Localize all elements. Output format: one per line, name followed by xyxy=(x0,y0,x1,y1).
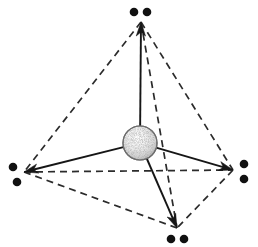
lone-pair-dot xyxy=(9,163,18,172)
lone-pair-dot xyxy=(130,8,139,17)
central-atom-texture xyxy=(121,124,159,162)
edge-left-right xyxy=(24,170,233,172)
lone-pair-dot xyxy=(240,175,249,184)
bond-center-left-shaft xyxy=(28,147,126,171)
tetrahedron-edges xyxy=(24,22,233,228)
bond-center-bottom xyxy=(146,157,177,228)
tetrahedral-geometry-figure xyxy=(0,0,258,247)
lone-pair-dot xyxy=(240,160,249,169)
molecular-geometry-diagram xyxy=(0,0,258,247)
lone-pair-dot xyxy=(13,178,22,187)
lone-pair-right xyxy=(240,160,249,184)
lone-pair-top xyxy=(130,8,152,17)
lone-pair-dots xyxy=(9,8,249,244)
lone-pair-dot xyxy=(180,235,189,244)
bond-center-left xyxy=(24,147,125,173)
lone-pair-dot xyxy=(143,8,152,17)
central-atom xyxy=(121,124,159,162)
lone-pair-left xyxy=(9,163,22,187)
edge-left-bottom xyxy=(24,172,177,228)
edge-top-bottom xyxy=(141,22,177,228)
bond-center-top-shaft xyxy=(140,26,141,128)
lone-pair-dot xyxy=(167,235,176,244)
edge-top-left xyxy=(24,22,141,172)
central-atom-stipple xyxy=(121,124,159,162)
edge-right-bottom xyxy=(177,170,233,228)
lone-pair-bottom xyxy=(167,235,189,244)
bond-vectors xyxy=(24,22,233,228)
